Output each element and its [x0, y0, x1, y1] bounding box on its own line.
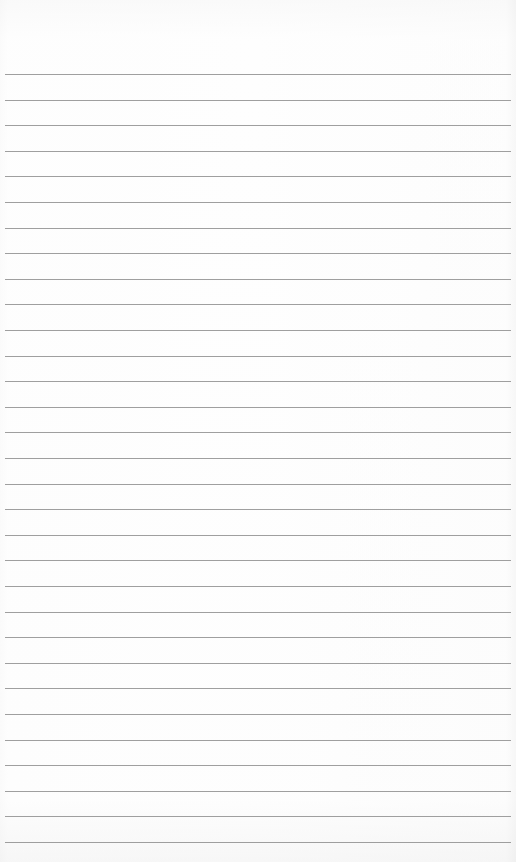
- ruled-line: [5, 356, 511, 357]
- ruled-line: [5, 228, 511, 229]
- ruled-line: [5, 791, 511, 792]
- ruled-line: [5, 637, 511, 638]
- ruled-line: [5, 663, 511, 664]
- ruled-line: [5, 407, 511, 408]
- ruled-line: [5, 304, 511, 305]
- ruled-line: [5, 330, 511, 331]
- ruled-line: [5, 458, 511, 459]
- ruled-line: [5, 612, 511, 613]
- ruled-line: [5, 816, 511, 817]
- ruled-line: [5, 714, 511, 715]
- ruled-line: [5, 842, 511, 843]
- ruled-line: [5, 688, 511, 689]
- ruled-line: [5, 74, 511, 75]
- ruled-line: [5, 740, 511, 741]
- ruled-line: [5, 202, 511, 203]
- ruled-line: [5, 535, 511, 536]
- ruled-line: [5, 432, 511, 433]
- lined-paper: [0, 0, 516, 862]
- ruled-line: [5, 279, 511, 280]
- ruled-line: [5, 381, 511, 382]
- ruled-line: [5, 509, 511, 510]
- ruled-line: [5, 176, 511, 177]
- ruled-line: [5, 586, 511, 587]
- ruled-line: [5, 765, 511, 766]
- ruled-line: [5, 560, 511, 561]
- ruled-line: [5, 100, 511, 101]
- ruled-line: [5, 253, 511, 254]
- ruled-line: [5, 125, 511, 126]
- ruled-line: [5, 151, 511, 152]
- ruled-line: [5, 484, 511, 485]
